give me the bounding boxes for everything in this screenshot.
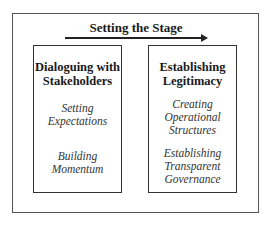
box-item-establishing-transparent-governance: Establishing Transparent Governance (149, 147, 236, 186)
box-title: Establishing Legitimacy (149, 60, 236, 88)
box-dialoguing-with-stakeholders: Dialoguing with Stakeholders Setting Exp… (33, 45, 122, 193)
arrow-line (65, 37, 203, 39)
arrow-right-icon (201, 34, 208, 42)
box-item-building-momentum: Building Momentum (34, 150, 121, 176)
diagram-title: Setting the Stage (0, 20, 272, 36)
box-establishing-legitimacy: Establishing Legitimacy Creating Operati… (148, 45, 237, 193)
box-title: Dialoguing with Stakeholders (34, 60, 121, 88)
box-item-setting-expectations: Setting Expectations (34, 102, 121, 128)
box-item-creating-operational-structures: Creating Operational Structures (149, 98, 236, 137)
